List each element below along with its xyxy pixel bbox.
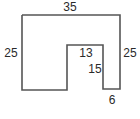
u-shape-outline bbox=[22, 15, 120, 90]
label-left-height: 25 bbox=[4, 46, 18, 60]
label-bottom-leg-width: 6 bbox=[109, 93, 116, 107]
label-top-length: 35 bbox=[63, 0, 77, 14]
label-inner-side-height: 15 bbox=[88, 62, 102, 76]
label-inner-top-width: 13 bbox=[79, 46, 93, 60]
label-right-height: 25 bbox=[123, 46, 137, 60]
dimension-diagram: 35 25 25 13 15 6 bbox=[0, 0, 140, 119]
